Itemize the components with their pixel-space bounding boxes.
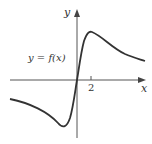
x-axis-label: x (141, 83, 147, 94)
function-label: y = f(x) (28, 53, 66, 63)
x-tick-label-2: 2 (88, 83, 94, 93)
y-axis-label: y (64, 7, 70, 18)
y-axis-arrow-icon (74, 9, 80, 17)
graph-canvas (0, 0, 152, 144)
